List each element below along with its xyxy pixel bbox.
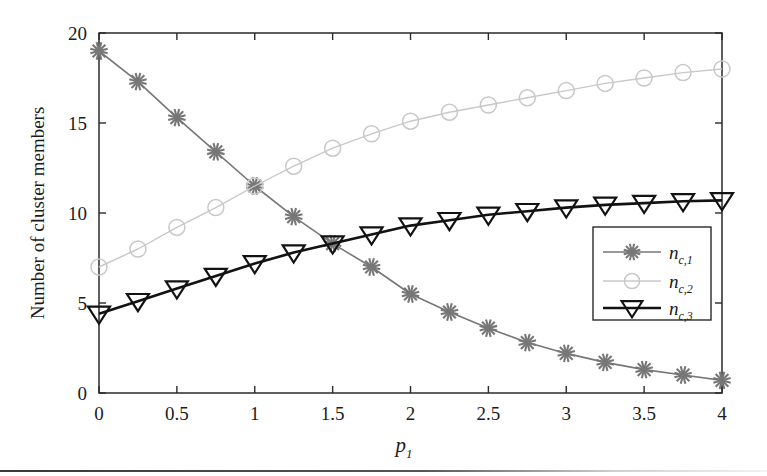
x-axis-title-subscript: 1: [406, 446, 413, 461]
x-tick-label: 3.5: [632, 403, 656, 424]
y-axis-tick-labels: 05101520: [68, 23, 87, 404]
y-tick-label: 0: [78, 383, 88, 404]
legend-label-subscript: c,1: [679, 253, 693, 267]
x-axis-title-base: p: [394, 433, 407, 457]
x-axis-tick-labels: 00.511.522.533.54: [94, 403, 727, 424]
cluster-members-line-chart: 00.511.522.533.54 05101520 Number of clu…: [0, 0, 767, 476]
x-tick-label: 4: [717, 403, 727, 424]
y-axis-title: Number of cluster members: [27, 107, 48, 320]
x-tick-label: 2: [406, 403, 416, 424]
x-tick-label: 2.5: [477, 403, 501, 424]
x-tick-label: 0.5: [165, 403, 189, 424]
y-tick-label: 15: [68, 113, 87, 134]
y-axis-title-text: Number of cluster members: [27, 107, 48, 320]
x-tick-label: 1.5: [321, 403, 345, 424]
x-axis-title: p1: [394, 433, 413, 461]
page-bottom-rule: [0, 470, 767, 472]
legend-label-subscript: c,3: [679, 309, 693, 323]
x-tick-label: 3: [562, 403, 572, 424]
chart-legend[interactable]: nc,1nc,2nc,3: [593, 227, 711, 323]
plot-area-background: [99, 33, 722, 393]
y-tick-label: 5: [78, 293, 88, 314]
y-tick-label: 20: [68, 23, 87, 44]
legend-label-subscript: c,2: [679, 282, 693, 296]
x-tick-label: 0: [94, 403, 104, 424]
legend-box: [593, 227, 711, 320]
x-axis-title-text: p1: [394, 433, 413, 461]
figure-container: 00.511.522.533.54 05101520 Number of clu…: [0, 0, 767, 476]
legend-label-base: n: [669, 242, 679, 263]
legend-label-base: n: [669, 298, 679, 319]
legend-label-base: n: [669, 271, 679, 292]
y-tick-label: 10: [68, 203, 87, 224]
x-tick-label: 1: [250, 403, 260, 424]
